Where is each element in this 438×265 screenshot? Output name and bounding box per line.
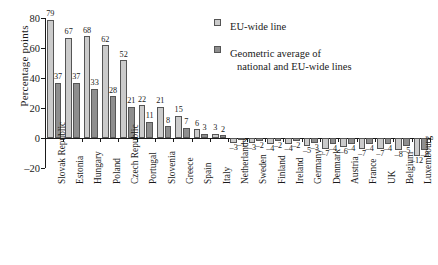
bar	[220, 135, 227, 138]
bar-value-label: 21	[153, 97, 168, 105]
x-axis-category-label: Poland	[113, 158, 122, 184]
x-axis-category-label: UK	[388, 170, 397, 184]
x-axis-category-label: France	[369, 158, 378, 184]
x-axis-tick-mark	[192, 138, 193, 142]
y-axis-tick-mark	[41, 108, 45, 109]
bar-value-label: 37	[69, 73, 84, 81]
y-axis-tick-label: 60	[30, 43, 41, 54]
x-axis-category-label: Austria	[351, 156, 360, 184]
x-axis-category-label: Belgium	[406, 152, 415, 184]
bar	[183, 128, 190, 139]
bar-value-label: 67	[61, 28, 76, 36]
x-axis-category-label: Germany	[314, 149, 323, 184]
bar-value-label: 68	[80, 27, 95, 35]
x-axis-tick-mark	[210, 138, 211, 142]
y-axis-tick-label: 0	[35, 133, 40, 144]
bar-value-label: 37	[51, 73, 66, 81]
legend-label-line2: national and EU-wide lines	[230, 61, 438, 73]
x-axis-tick-mark	[357, 138, 358, 142]
x-axis-category-label: Slovak Republic	[58, 122, 67, 184]
x-axis-category-label: Spain	[204, 163, 213, 184]
legend: EU-wide lineGeometric average ofnational…	[214, 16, 438, 82]
x-axis-category-label: Greece	[186, 157, 195, 184]
x-axis-category-label: Netherlands	[241, 139, 250, 184]
bar-value-label: 22	[135, 96, 150, 104]
x-axis-tick-mark	[412, 138, 413, 142]
y-axis-tick-labels: 806040200–20	[10, 0, 40, 265]
x-axis-tick-mark	[118, 138, 119, 142]
legend-label: Geometric average ofnational and EU-wide…	[230, 48, 438, 73]
x-axis-category-label: Italy	[223, 167, 232, 184]
x-axis-category-label: Ireland	[296, 157, 305, 184]
bar	[110, 96, 117, 138]
bar	[348, 138, 355, 144]
x-axis-category-label: Sweden	[259, 154, 268, 184]
y-axis-tick-mark	[41, 168, 45, 169]
legend-swatch	[214, 19, 221, 26]
legend-swatch	[214, 46, 221, 53]
x-axis-category-label: Estonia	[76, 156, 85, 184]
x-axis-tick-mark	[82, 138, 83, 142]
legend-item: EU-wide line	[214, 16, 438, 34]
x-axis-category-label: Luxembourg	[424, 136, 433, 184]
legend-label: EU-wide line	[230, 21, 286, 32]
bar	[146, 122, 153, 139]
bar-value-label: 28	[106, 87, 121, 95]
bar	[73, 83, 80, 139]
bar	[366, 138, 373, 144]
bar-value-label: 8	[161, 117, 176, 125]
x-axis-category-label: Denmark	[333, 149, 342, 184]
bar	[311, 138, 318, 143]
y-axis-tick-mark	[41, 78, 45, 79]
x-axis-tick-mark	[155, 138, 156, 142]
y-axis-tick-mark	[41, 138, 45, 139]
bar-value-label: 79	[43, 10, 58, 18]
y-axis-tick-mark	[41, 48, 45, 49]
bar	[403, 138, 410, 146]
x-axis-category-label: Czech Republic	[131, 124, 140, 184]
bar	[385, 138, 392, 144]
bar-value-label: 15	[171, 106, 186, 114]
x-axis-category-label: Slovenia	[168, 151, 177, 184]
bar-value-label: 62	[98, 36, 113, 44]
y-axis-tick-label: 80	[30, 13, 41, 24]
x-axis-tick-mark	[302, 138, 303, 142]
x-axis-category-label: Portugal	[149, 152, 158, 184]
x-axis-category-label: Finland	[278, 155, 287, 184]
x-axis-category-label: Hungary	[94, 151, 103, 184]
x-axis-tick-mark	[173, 138, 174, 142]
bar	[91, 89, 98, 139]
bar-value-label: 2	[216, 126, 231, 134]
bar	[201, 134, 208, 139]
y-axis-tick-label: –20	[24, 163, 40, 174]
bar	[212, 134, 219, 139]
x-axis-tick-mark	[100, 138, 101, 142]
bar	[330, 138, 337, 144]
y-axis-tick-label: 40	[30, 73, 41, 84]
bar-chart: Percentage points 806040200–20 793767376…	[0, 0, 438, 265]
bar-value-label: 52	[116, 51, 131, 59]
bar	[165, 126, 172, 138]
y-axis-tick-label: 20	[30, 103, 41, 114]
legend-item: Geometric average ofnational and EU-wide…	[214, 43, 438, 73]
bar-value-label: 33	[87, 79, 102, 87]
bar-value-label: 11	[142, 112, 157, 120]
